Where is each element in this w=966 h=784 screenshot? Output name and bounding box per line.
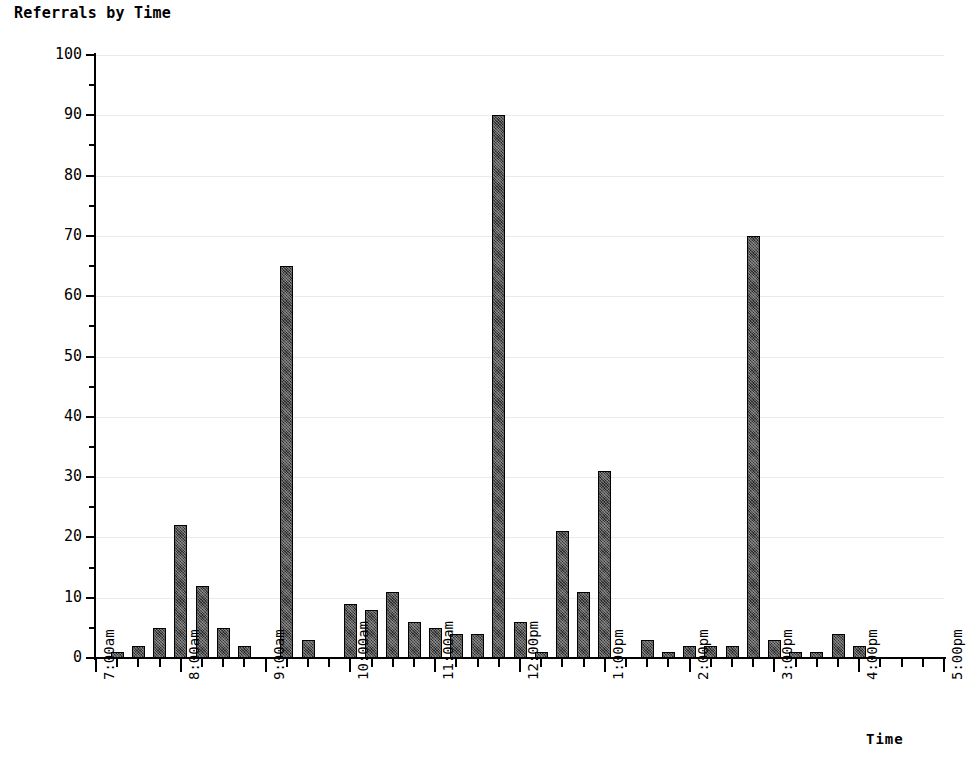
x-axis-tick (583, 658, 585, 667)
y-axis-tick (89, 386, 96, 388)
x-axis-tick (816, 658, 818, 667)
y-axis-tick (86, 295, 96, 297)
x-axis-tick (773, 658, 775, 672)
y-axis-tick (89, 84, 96, 86)
x-axis-tick (858, 658, 860, 672)
y-axis-tick (89, 205, 96, 207)
gridline (96, 115, 944, 116)
x-axis-tick-label: 5:00pm (950, 629, 964, 680)
y-axis-tick-label: 70 (38, 228, 82, 243)
bar (386, 592, 399, 658)
x-axis-tick (413, 658, 415, 667)
gridline (96, 477, 944, 478)
x-axis-tick (837, 658, 839, 667)
gridline (96, 417, 944, 418)
bar (556, 531, 569, 658)
y-axis-tick (89, 506, 96, 508)
y-axis-tick-label: 10 (38, 590, 82, 605)
gridline (96, 537, 944, 538)
x-axis-tick-label: 4:00pm (865, 629, 879, 680)
bar (810, 652, 823, 658)
bar (577, 592, 590, 658)
x-axis-tick (95, 658, 97, 672)
y-axis-tick (86, 356, 96, 358)
y-axis-tick-label: 60 (38, 288, 82, 303)
x-axis-tick (222, 658, 224, 667)
x-axis-tick-label: 1:00pm (611, 629, 625, 680)
bar (302, 640, 315, 658)
page-caption (10, 766, 956, 784)
x-axis-tick (328, 658, 330, 667)
x-axis-tick (667, 658, 669, 667)
bar (747, 236, 760, 658)
y-axis-tick (89, 144, 96, 146)
y-axis-tick-label: 40 (38, 409, 82, 424)
x-axis-tick (180, 658, 182, 672)
x-axis-tick (752, 658, 754, 667)
bar (280, 266, 293, 658)
bar (641, 640, 654, 658)
y-axis-tick-label: 100 (38, 47, 82, 62)
x-axis-tick-label: 2:00pm (696, 629, 710, 680)
x-axis-tick-label: 11:00am (441, 621, 455, 680)
bar (492, 115, 505, 658)
y-axis-tick-label: 90 (38, 107, 82, 122)
x-axis-tick (307, 658, 309, 667)
y-axis-tick (86, 114, 96, 116)
y-axis-tick-label: 30 (38, 469, 82, 484)
x-axis-tick-label: 7:00am (102, 629, 116, 680)
x-axis-tick (922, 658, 924, 667)
y-axis-tick-label: 0 (38, 650, 82, 665)
bar (726, 646, 739, 658)
y-axis-tick (86, 416, 96, 418)
y-axis-tick (89, 567, 96, 569)
x-axis-tick (646, 658, 648, 667)
y-axis-tick (89, 325, 96, 327)
y-axis-tick-label: 80 (38, 168, 82, 183)
x-axis-tick (604, 658, 606, 672)
bar (238, 646, 251, 658)
x-axis-tick (519, 658, 521, 672)
y-axis-tick-label-group: 0102030405060708090100 (30, 55, 82, 658)
x-axis-tick-label: 10:00am (356, 621, 370, 680)
gridline (96, 598, 944, 599)
x-axis-tick (349, 658, 351, 672)
bar (832, 634, 845, 658)
y-axis-tick-label: 20 (38, 529, 82, 544)
bar (471, 634, 484, 658)
y-axis-tick (86, 536, 96, 538)
y-axis-tick (86, 175, 96, 177)
x-axis-tick (498, 658, 500, 667)
x-axis-tick (943, 658, 945, 672)
y-axis-tick (86, 54, 96, 56)
x-axis-tick-label: 12:00pm (526, 621, 540, 680)
x-axis-title: Time (866, 731, 904, 747)
x-axis-tick (243, 658, 245, 667)
bar (408, 622, 421, 658)
bar (662, 652, 675, 658)
x-axis-tick (434, 658, 436, 672)
y-axis-tick (86, 597, 96, 599)
y-axis-tick (89, 627, 96, 629)
bar (217, 628, 230, 658)
y-axis-tick (89, 446, 96, 448)
bar (132, 646, 145, 658)
gridline (96, 176, 944, 177)
y-axis-tick (86, 235, 96, 237)
gridline (96, 357, 944, 358)
x-axis-tick (392, 658, 394, 667)
y-axis-tick (86, 476, 96, 478)
y-axis-tick-label: 50 (38, 349, 82, 364)
x-axis-tick (265, 658, 267, 672)
x-axis-tick (901, 658, 903, 667)
x-axis-tick (561, 658, 563, 667)
x-axis-tick-label: 9:00am (272, 629, 286, 680)
x-axis-tick-label: 8:00am (187, 629, 201, 680)
y-axis-tick (89, 265, 96, 267)
gridline (96, 236, 944, 237)
x-axis-tick-label-group: 7:00am8:00am9:00am10:00am11:00am12:00pm1… (96, 0, 944, 100)
x-axis-tick (477, 658, 479, 667)
x-axis-tick (689, 658, 691, 672)
gridline (96, 296, 944, 297)
x-axis-tick-label: 3:00pm (780, 629, 794, 680)
